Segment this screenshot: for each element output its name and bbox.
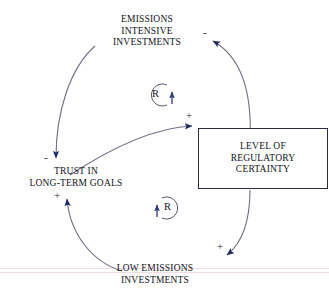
polarity-label-low-emissions-to-trust: +: [54, 190, 60, 201]
polarity-label-emissions-intensive-to-trust: -: [44, 152, 48, 163]
polarity-label-trust-to-regulatory: +: [186, 110, 192, 121]
polarity-label-regulatory-to-emissions-intensive: -: [203, 27, 207, 38]
node-line: CERTAINTY: [231, 164, 296, 176]
reinforcing-loop-upper-label: R: [152, 88, 159, 99]
node-line: EMISSIONS: [88, 14, 206, 26]
node-line: INVESTMENTS: [92, 275, 218, 287]
polarity-label-regulatory-to-low-emissions: +: [217, 241, 223, 252]
node-line: LEVEL OF: [231, 141, 296, 153]
node-low-emissions-investments: LOW EMISSIONS INVESTMENTS: [92, 263, 218, 286]
causal-loop-diagram: EMISSIONS INTENSIVE INVESTMENTS TRUST IN…: [0, 0, 329, 301]
node-line: INVESTMENTS: [88, 37, 206, 49]
link-emissions-intensive-to-trust: [56, 46, 95, 158]
node-trust-in-long-term-goals: TRUST IN LONG-TERM GOALS: [2, 166, 150, 189]
node-line: TRUST IN: [2, 166, 150, 178]
link-regulatory-to-low-emissions: [227, 190, 250, 255]
node-level-of-regulatory-certainty: LEVEL OF REGULATORY CERTAINTY: [198, 128, 328, 189]
link-regulatory-to-emissions-intensive: [213, 41, 250, 140]
reinforcing-loop-lower-label: R: [164, 201, 171, 212]
node-line: REGULATORY: [231, 153, 296, 165]
link-low-emissions-to-trust: [67, 199, 122, 271]
node-line: LONG-TERM GOALS: [2, 178, 150, 190]
node-line: LOW EMISSIONS: [92, 263, 218, 275]
node-line: INTENSIVE: [88, 26, 206, 38]
node-emissions-intensive-investments: EMISSIONS INTENSIVE INVESTMENTS: [88, 14, 206, 49]
box-label: LEVEL OF REGULATORY CERTAINTY: [231, 141, 296, 176]
